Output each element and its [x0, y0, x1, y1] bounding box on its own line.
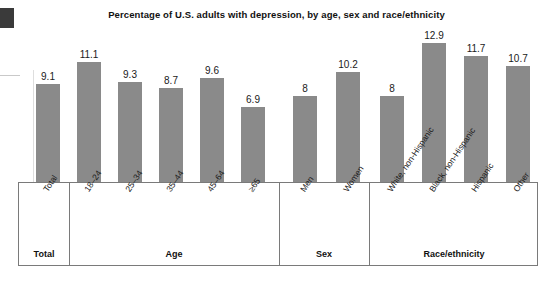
- bar-value-label: 12.9: [410, 30, 458, 41]
- bar-value-label: 11.7: [452, 43, 500, 54]
- bar: [293, 96, 317, 182]
- bar: [118, 82, 142, 182]
- bar-group: 8.7: [159, 0, 183, 182]
- group-label: Age: [69, 249, 279, 259]
- bar-group: 12.9: [422, 0, 446, 182]
- bar-value-label: 6.9: [229, 94, 277, 105]
- bar: [506, 66, 530, 182]
- bar-group: 10.7: [506, 0, 530, 182]
- bar-group: 6.9: [241, 0, 265, 182]
- bar-value-label: 9.1: [24, 71, 72, 82]
- chart-page: Percentage of U.S. adults with depressio…: [0, 0, 553, 291]
- bar-plot-area: 9.111.19.38.79.66.9810.2812.911.710.7: [0, 0, 553, 182]
- bar-value-label: 8: [368, 83, 416, 94]
- bar-group: 8: [293, 0, 317, 182]
- bar-group: 11.1: [77, 0, 101, 182]
- bar-group: 10.2: [336, 0, 360, 182]
- bar-value-label: 10.7: [494, 53, 542, 64]
- bar: [77, 62, 101, 182]
- category-table: TotalAgeSexRace/ethnicityTotal18–2425–34…: [18, 182, 538, 266]
- bar-value-label: 10.2: [324, 59, 372, 70]
- bar: [200, 78, 224, 182]
- bar-group: 8: [380, 0, 404, 182]
- bar: [36, 84, 60, 182]
- bar-group: 9.1: [36, 0, 60, 182]
- bar: [422, 43, 446, 182]
- bar-value-label: 8.7: [147, 75, 195, 86]
- bar-value-label: 9.6: [188, 65, 236, 76]
- bar-value-label: 11.1: [65, 49, 113, 60]
- bar: [159, 88, 183, 182]
- bar: [241, 107, 265, 182]
- group-label: Race/ethnicity: [369, 249, 539, 259]
- bar-value-label: 8: [281, 83, 329, 94]
- bar-group: 11.7: [464, 0, 488, 182]
- bar-group: 9.3: [118, 0, 142, 182]
- group-label: Sex: [279, 249, 369, 259]
- group-label: Total: [19, 249, 69, 259]
- bar-group: 9.6: [200, 0, 224, 182]
